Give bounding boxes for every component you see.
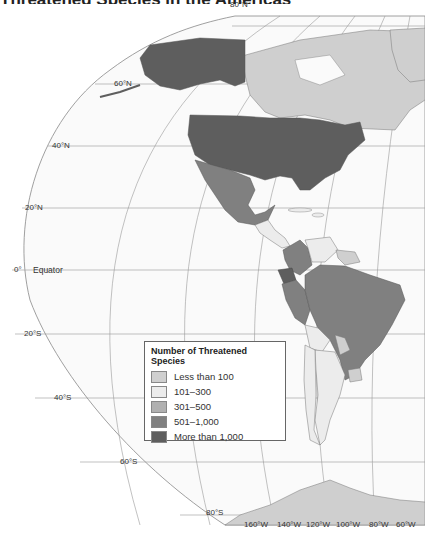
lon-label-80w: 80°W	[369, 520, 389, 529]
legend-label: 101–300	[174, 386, 211, 397]
lon-label-140w: 140°W	[277, 520, 301, 529]
lat-label-60n: 60°N	[114, 79, 132, 88]
lat-label-20n: 20°N	[25, 203, 43, 212]
legend: Number of Threatened Species Less than 1…	[144, 341, 286, 441]
legend-swatch	[151, 401, 167, 413]
legend-swatch	[151, 386, 167, 398]
region-uruguay	[348, 368, 362, 382]
legend-item: 501–1,000	[151, 414, 279, 429]
legend-swatch	[151, 431, 167, 443]
lon-label-100w: 100°W	[336, 520, 360, 529]
legend-swatch	[151, 371, 167, 383]
legend-item: 301–500	[151, 399, 279, 414]
lat-label-0: 0°	[14, 265, 22, 274]
equator-label: Equator	[33, 265, 63, 275]
lon-label-160w: 160°W	[244, 520, 268, 529]
map-canvas	[0, 0, 425, 539]
region-alaska	[140, 38, 245, 90]
legend-label: 301–500	[174, 401, 211, 412]
lat-label-80n: 80°N	[230, 0, 248, 9]
legend-title: Number of Threatened Species	[151, 346, 279, 366]
lon-label-60w: 60°W	[396, 520, 416, 529]
lat-label-20s: 20°S	[24, 329, 41, 338]
legend-item: 101–300	[151, 384, 279, 399]
lat-label-40n: 40°N	[52, 141, 70, 150]
lat-label-80s: 80°S	[206, 508, 223, 517]
lon-label-120w: 120°W	[306, 520, 330, 529]
legend-item: More than 1,000	[151, 429, 279, 444]
legend-swatch	[151, 416, 167, 428]
lat-label-60s: 60°S	[120, 457, 137, 466]
legend-item: Less than 100	[151, 369, 279, 384]
legend-label: More than 1,000	[174, 431, 243, 442]
legend-label: Less than 100	[174, 371, 234, 382]
legend-label: 501–1,000	[174, 416, 219, 427]
lat-label-40s: 40°S	[54, 393, 71, 402]
